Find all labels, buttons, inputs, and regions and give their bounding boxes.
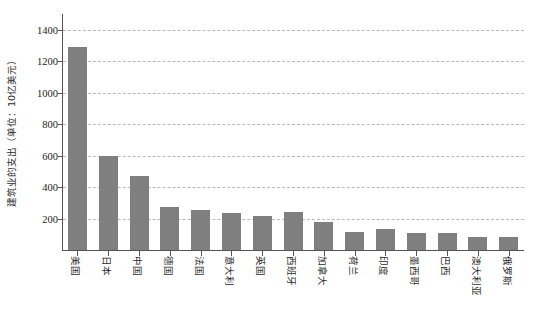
x-tick-label: 英国 [253,256,267,312]
bar [191,210,210,250]
bar [284,212,303,250]
bar [345,232,364,250]
bar [253,216,272,250]
bar [130,176,149,250]
x-tick-label: 墨西哥 [407,256,421,312]
gridline-1000 [63,93,524,94]
bar [314,222,333,250]
y-tick-label: 1200 [24,56,58,67]
gridline-1400 [63,30,524,31]
x-tick-label: 日本 [99,256,113,312]
x-tick-label: 加拿大 [315,256,329,312]
bar [407,233,426,250]
bar [68,47,87,250]
x-tick-label: 俄罗斯 [500,256,514,312]
y-axis-tick-labels: 200400600800100012001400 [20,14,58,250]
x-tick-label: 西班牙 [284,256,298,312]
gridline-600 [63,156,524,157]
bar [160,207,179,250]
bar [376,229,395,250]
y-tick-label: 800 [24,119,58,130]
y-axis-line [62,14,63,250]
y-tick-label: 1000 [24,87,58,98]
bar [468,237,487,250]
plot-area [62,14,524,250]
x-tick-label: 中国 [130,256,144,312]
x-tick-label: 印度 [376,256,390,312]
y-tick-label: 1400 [24,24,58,35]
x-tick-label: 荷兰 [346,256,360,312]
y-axis-title: 建筑业的支出（单位：10亿美元） [0,0,22,262]
bar [99,156,118,250]
gridline-1200 [63,61,524,62]
y-tick-label: 600 [24,150,58,161]
y-tick-label: 200 [24,213,58,224]
bar [222,213,241,250]
bar [438,233,457,250]
x-tick-label: 澳大利亚 [469,256,483,312]
x-tick-label: 美国 [68,256,82,312]
x-tick-label: 德国 [161,256,175,312]
y-axis-title-label: 建筑业的支出（单位：10亿美元） [4,55,18,207]
x-axis-tick-labels: 美国日本中国德国法国意大利英国西班牙加拿大荷兰印度墨西哥巴西澳大利亚俄罗斯 [62,256,524,312]
bar [499,237,518,250]
y-tick-label: 400 [24,182,58,193]
x-tick-label: 法国 [192,256,206,312]
x-tick-label: 巴西 [438,256,452,312]
x-tick-label: 意大利 [222,256,236,312]
gridline-800 [63,124,524,125]
bar-chart: 建筑业的支出（单位：10亿美元） 20040060080010001200140… [0,0,541,312]
